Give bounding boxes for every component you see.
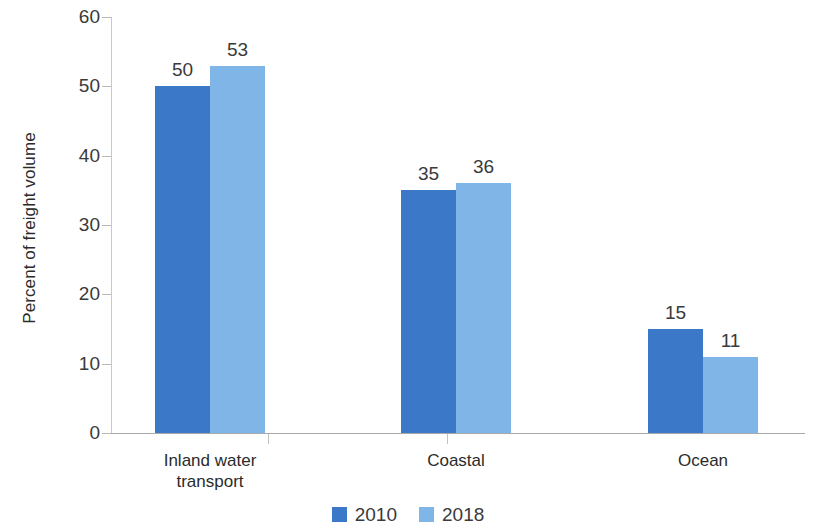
y-tick-mark xyxy=(102,17,111,18)
category-label-line: Inland water xyxy=(100,450,320,471)
bar xyxy=(210,66,265,433)
bar xyxy=(703,357,758,433)
bar-value-label: 36 xyxy=(456,157,511,176)
x-axis-line xyxy=(111,433,805,434)
legend-item[interactable]: 2010 xyxy=(332,505,397,524)
category-label-line: Coastal xyxy=(346,450,566,471)
legend-label: 2010 xyxy=(355,505,397,524)
category-separator-tick xyxy=(447,434,448,444)
legend-swatch-icon xyxy=(419,507,434,522)
legend-label: 2018 xyxy=(442,505,484,524)
y-tick-mark xyxy=(102,433,111,434)
bar xyxy=(648,329,703,433)
y-tick-label: 10 xyxy=(54,354,100,373)
bar-value-label: 15 xyxy=(648,303,703,322)
bar-value-label: 53 xyxy=(210,40,265,59)
y-tick-mark xyxy=(102,364,111,365)
category-label-line: Ocean xyxy=(593,450,813,471)
y-tick-mark xyxy=(102,156,111,157)
y-tick-label: 30 xyxy=(54,215,100,234)
bar xyxy=(401,190,456,433)
y-tick-label: 60 xyxy=(54,7,100,26)
y-tick-mark xyxy=(102,294,111,295)
category-label-line: transport xyxy=(100,471,320,492)
y-tick-mark xyxy=(102,225,111,226)
x-axis-category-label: Ocean xyxy=(593,450,813,471)
plot-area: 505335361511 xyxy=(111,17,805,433)
bar-value-label: 35 xyxy=(401,164,456,183)
legend-item[interactable]: 2018 xyxy=(419,505,484,524)
x-axis-category-label: Inland watertransport xyxy=(100,450,320,493)
bar xyxy=(155,86,210,433)
bar-chart: Percent of freight volume 0102030405060 … xyxy=(0,0,816,532)
x-axis-category-label: Coastal xyxy=(346,450,566,471)
y-axis-tick-labels: 0102030405060 xyxy=(0,0,100,532)
y-tick-label: 50 xyxy=(54,76,100,95)
y-tick-mark xyxy=(102,86,111,87)
y-tick-label: 40 xyxy=(54,146,100,165)
chart-legend: 20102018 xyxy=(0,505,816,524)
bar-value-label: 11 xyxy=(703,331,758,350)
category-separator-tick xyxy=(268,434,269,444)
y-tick-label: 0 xyxy=(54,423,100,442)
bar-value-label: 50 xyxy=(155,60,210,79)
bar xyxy=(456,183,511,433)
legend-swatch-icon xyxy=(332,507,347,522)
y-tick-label: 20 xyxy=(54,284,100,303)
